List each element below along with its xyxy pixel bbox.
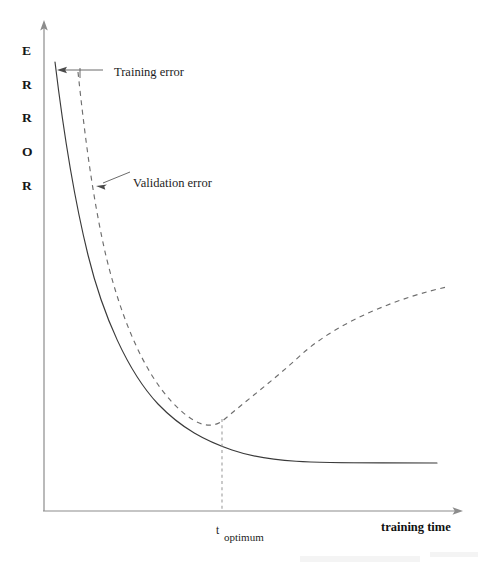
curves-group bbox=[55, 62, 447, 510]
y-axis-letter-0: E bbox=[22, 43, 31, 58]
training-error-annotation-label: Training error bbox=[114, 65, 185, 79]
y-axis-letter-2: R bbox=[22, 110, 32, 125]
optimum-tick-subscript: optimum bbox=[224, 531, 264, 543]
optimum-tick-base: t bbox=[216, 524, 220, 536]
validation-error-leader-arrowhead bbox=[96, 185, 107, 190]
training-error-curve bbox=[55, 62, 437, 463]
scan-artifact bbox=[300, 556, 420, 562]
y-axis-letter-1: R bbox=[22, 77, 32, 92]
validation-error-annotation-label: Validation error bbox=[133, 176, 213, 190]
y-axis-letter-4: R bbox=[22, 178, 32, 193]
training-validation-error-figure: E R R O R Training error Validation erro… bbox=[0, 0, 482, 568]
annotation-leaders bbox=[57, 67, 130, 190]
x-axis-title: training time bbox=[381, 520, 451, 534]
validation-error-leader-line bbox=[103, 172, 130, 183]
y-axis-letter-3: O bbox=[22, 144, 33, 159]
axes-group bbox=[40, 20, 463, 515]
scan-artifact bbox=[430, 552, 478, 557]
error-vs-training-time-chart: E R R O R Training error Validation erro… bbox=[0, 0, 482, 568]
text-labels: E R R O R Training error Validation erro… bbox=[22, 43, 451, 543]
validation-error-curve bbox=[78, 72, 447, 425]
